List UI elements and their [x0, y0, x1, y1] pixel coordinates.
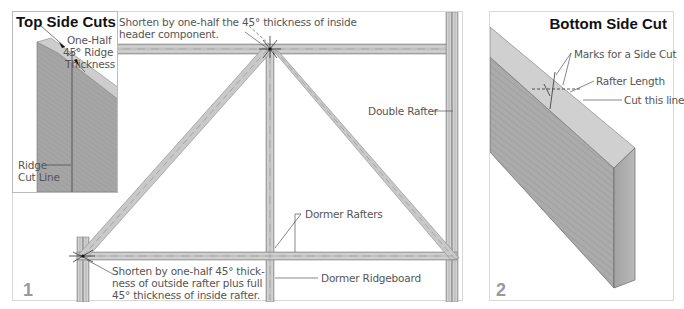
top-side-cuts-inset: Top Side Cuts One-Half 45° Ridge Thickne…	[12, 11, 118, 193]
figure-number-2: 2	[496, 280, 506, 301]
figure-1-panel: Shorten by one-half the 45° thickness of…	[12, 11, 463, 301]
inset-title-top-side-cuts: Top Side Cuts	[16, 13, 116, 30]
label-45-ridge: 45° Ridge	[63, 46, 113, 58]
label-bottom-shorten-1: Shorten by one-half 45° thick-	[112, 265, 265, 277]
label-dormer-ridgeboard: Dormer Ridgeboard	[321, 272, 421, 284]
label-ridge: Ridge	[18, 159, 47, 171]
figure-2-title: Bottom Side Cut	[550, 15, 668, 32]
label-bottom-shorten-2: ness of outside rafter plus full	[112, 277, 262, 289]
label-dormer-rafters: Dormer Rafters	[305, 208, 383, 220]
label-cut-this-line: Cut this line	[624, 94, 684, 106]
label-cut-line: Cut Line	[18, 171, 60, 183]
label-bottom-shorten-3: 45° thickness of inside rafter.	[112, 289, 260, 301]
label-double-rafter: Double Rafter	[368, 105, 438, 117]
label-one-half: One-Half	[67, 34, 112, 46]
label-thickness: Thickness	[65, 58, 115, 70]
label-rafter-length: Rafter Length	[596, 75, 665, 87]
label-top-shorten-1: Shorten by one-half the 45° thickness of…	[119, 16, 357, 28]
label-top-shorten-2: header component.	[119, 28, 219, 40]
figure-2-panel: Bottom Side Cut Marks for a Side Cut Raf…	[489, 11, 674, 301]
label-marks-side-cut: Marks for a Side Cut	[574, 48, 676, 60]
figure-number-1: 1	[23, 280, 33, 301]
